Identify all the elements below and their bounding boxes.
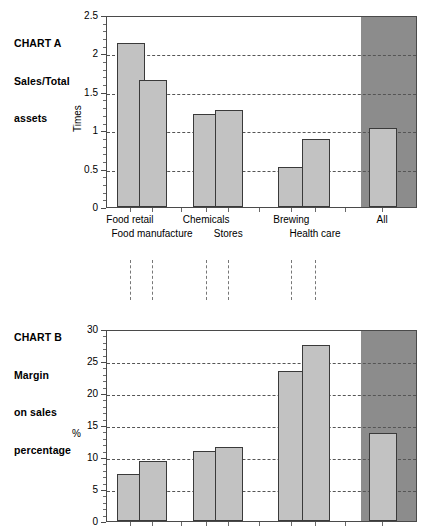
y-axis-minor-tick [103,349,106,350]
chart-a-plot-area [106,16,417,208]
y-axis-minor-tick [103,193,106,194]
x-axis-tick [315,208,316,212]
y-axis-tick-label: 2 [72,48,98,59]
y-axis-tick-label: 20 [72,388,98,399]
y-axis-minor-tick [103,154,106,155]
y-axis-tick-label: 5 [72,484,98,495]
gridline [107,427,416,428]
y-axis-tick-label: 10 [72,452,98,463]
bar [215,110,243,207]
chart-b-title-line-2: Margin [14,369,71,382]
y-axis-tick-label: 30 [72,324,98,335]
y-axis-minor-tick [103,375,106,376]
y-axis-minor-tick [103,77,106,78]
y-axis-minor-tick [103,432,106,433]
x-axis-tick [181,208,182,212]
y-axis-tick-label: 0.5 [72,164,98,175]
y-axis-minor-tick [103,200,106,201]
y-axis-minor-tick [103,420,106,421]
chart-a-title-line-2: Sales/Total [14,75,70,88]
x-axis-tick [152,522,153,526]
y-axis-minor-tick [103,70,106,71]
y-axis-minor-tick [103,185,106,186]
y-axis-minor-tick [103,471,106,472]
y-axis-tick [101,54,106,55]
chart-b-plot-area [106,330,417,522]
x-axis-tick [130,522,131,526]
x-axis-tick [345,522,346,526]
x-axis-tick [291,522,292,526]
x-axis-tick [382,208,383,212]
connector-line [315,260,316,300]
y-axis-tick [101,522,106,523]
x-axis-tick [345,208,346,212]
connector-line [152,260,153,300]
y-axis-minor-tick [103,356,106,357]
gridline [107,395,416,396]
connector-line [228,260,229,300]
y-axis-minor-tick [103,100,106,101]
x-axis-tick [315,522,316,526]
chart-b-title-line-1: CHART B [14,331,71,344]
y-axis-minor-tick [103,464,106,465]
y-axis-tick-label: 25 [72,356,98,367]
y-axis-tick [101,458,106,459]
y-axis-tick-label: 2.5 [72,10,98,21]
y-axis-tick-label: 0 [72,202,98,213]
y-axis-tick [101,426,106,427]
y-axis-minor-tick [103,47,106,48]
y-axis-tick [101,208,106,209]
y-axis-tick [101,330,106,331]
y-axis-minor-tick [103,177,106,178]
x-axis-category-label: All [327,214,424,225]
connector-line [206,260,207,300]
y-axis-tick-label: 1 [72,125,98,136]
bar [302,139,330,207]
bar [302,345,330,521]
x-axis-tick [152,208,153,212]
chart-a-title: CHART A Sales/Total assets [14,12,70,150]
y-axis-minor-tick [103,24,106,25]
y-axis-tick [101,362,106,363]
x-axis-tick [259,208,260,212]
chart-b-title-line-3: on sales [14,406,71,419]
y-axis-tick [101,394,106,395]
y-axis-minor-tick [103,413,106,414]
y-axis-tick-label: 15 [72,420,98,431]
y-axis-minor-tick [103,336,106,337]
gridline [107,363,416,364]
bar [215,447,243,521]
y-axis-minor-tick [103,162,106,163]
y-axis-minor-tick [103,452,106,453]
chart-a: CHART A Sales/Total assets Times 00.511.… [0,0,424,258]
chart-a-title-line-1: CHART A [14,37,70,50]
connector-line [291,260,292,300]
x-axis-tick [228,522,229,526]
y-axis-minor-tick [103,439,106,440]
y-axis-tick-label: 1.5 [72,87,98,98]
y-axis-tick [101,170,106,171]
y-axis-minor-tick [103,477,106,478]
y-axis-tick [101,490,106,491]
y-axis-minor-tick [103,381,106,382]
y-axis-minor-tick [103,139,106,140]
x-axis-tick [206,522,207,526]
x-axis-tick [181,522,182,526]
y-axis-tick-label: 0 [72,516,98,527]
y-axis-tick [101,93,106,94]
y-axis-minor-tick [103,343,106,344]
y-axis-minor-tick [103,147,106,148]
bar [369,433,397,521]
y-axis-minor-tick [103,400,106,401]
y-axis-tick [101,16,106,17]
y-axis-minor-tick [103,39,106,40]
y-axis-minor-tick [103,388,106,389]
bar [139,461,167,521]
x-axis-tick [291,208,292,212]
chart-b: CHART B Margin on sales percentage % 051… [0,300,424,530]
y-axis-minor-tick [103,516,106,517]
y-axis-minor-tick [103,509,106,510]
y-axis-minor-tick [103,116,106,117]
category-connector-lines [0,258,424,302]
y-axis-minor-tick [103,31,106,32]
